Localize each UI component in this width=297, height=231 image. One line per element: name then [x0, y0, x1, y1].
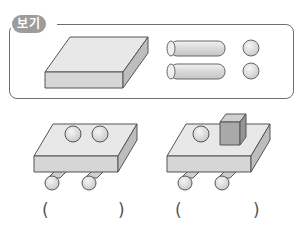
example-slab-icon	[45, 37, 148, 88]
figure-1-icon	[34, 124, 137, 190]
example-cylinder-icon	[167, 64, 225, 79]
answer-1-open-paren: (	[42, 200, 49, 220]
example-sphere-icon	[243, 40, 259, 56]
example-cylinder-icon	[167, 41, 225, 56]
example-sphere-icon	[243, 63, 259, 79]
figure-2-icon	[167, 114, 270, 190]
answer-2-open-paren: (	[175, 200, 182, 220]
answer-2-close-paren: )	[253, 200, 260, 220]
answer-1-close-paren: )	[118, 200, 125, 220]
shapes-illustration	[0, 0, 297, 231]
